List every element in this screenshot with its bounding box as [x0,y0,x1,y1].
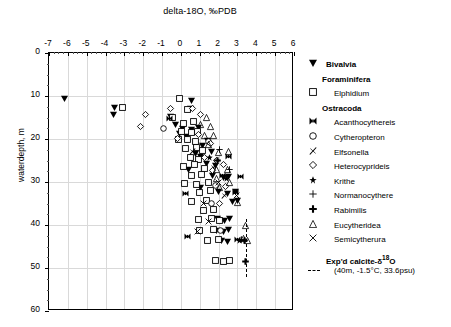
legend-item[interactable]: Rabimilis [300,204,450,219]
legend-item[interactable]: Semicytherura [300,233,450,248]
x-tick-label: 4 [245,38,265,48]
y-tick-label: 60 [18,304,40,314]
data-point [172,121,179,128]
data-point [226,257,233,264]
x-axis-tick [200,52,201,56]
x-axis-tick [87,52,88,56]
data-point [207,123,214,130]
x-tick-label: -7 [38,38,58,48]
x-axis-minor-tick [223,52,224,54]
y-axis-tick [45,225,49,226]
data-point [205,141,212,148]
x-tick-label: 0 [170,38,190,48]
legend-item[interactable]: Krithe [300,175,450,190]
legend-item-label: Bivalvia [326,60,356,69]
legend-item-label: Krithe [334,177,355,186]
legend-group-label: Ostracoda [322,104,362,113]
x-axis-tick [106,52,107,56]
data-point [226,215,233,222]
x-axis-minor-tick [247,52,248,54]
x-axis-minor-tick [289,52,290,54]
y-axis-tick [45,182,49,183]
legend-item-label: Eucytheridea [334,221,381,230]
data-point [193,181,200,188]
legend-item[interactable]: Cytheropteron [300,131,450,146]
y-axis-minor-tick [47,150,49,151]
square-open-icon [308,88,318,98]
data-point [217,227,224,234]
diamond-open-icon [308,161,318,171]
y-axis-minor-tick [47,236,49,237]
legend-item[interactable]: Heterocyprideis [300,160,450,175]
x-axis-tick [143,52,144,56]
x-tick-label: 1 [189,38,209,48]
x-axis-minor-tick [129,52,130,54]
x-tick-label: -5 [76,38,96,48]
legend-item[interactable]: Elphidium [300,87,450,102]
x-tick-label: 3 [226,38,246,48]
horizontal-gridline [49,139,292,140]
y-axis-tick [45,96,49,97]
x-axis-minor-tick [153,52,154,54]
data-point [190,118,197,125]
legend-item[interactable]: Acanthocythereis [300,116,450,131]
x-axis-minor-tick [167,52,168,54]
horizontal-gridline [49,96,292,97]
data-point [215,179,222,186]
legend-item-label: Heterocyprideis [334,162,390,171]
data-point [215,149,222,156]
y-tick-label: 50 [18,261,40,271]
data-point [166,115,173,122]
y-axis-minor-tick [47,75,49,76]
data-point [203,114,210,121]
legend-item[interactable]: Eucytheridea [300,219,450,234]
x-axis-tick [294,52,295,56]
data-point [198,171,205,178]
legend-item[interactable]: Elfsonella [300,146,450,161]
legend-group-label: Foraminifera [322,75,370,84]
y-axis-minor-tick [47,204,49,205]
plus-bold-icon [308,205,318,215]
expected-calcite-line [246,219,247,277]
horizontal-gridline [49,182,292,183]
y-axis-minor-tick [47,300,49,301]
x-axis-minor-tick [77,52,78,54]
x-tick-label: 5 [264,38,284,48]
y-tick-label: 0 [18,46,40,56]
x-axis-minor-tick [172,52,173,54]
data-point [194,228,201,235]
vertical-gridline [124,53,125,309]
legend-item[interactable]: Bivalvia [300,58,450,73]
legend-item[interactable]: Normanocythere [300,189,450,204]
y-axis-tick [45,311,49,312]
data-point [195,216,202,223]
bowtie-filled-icon [308,117,318,127]
data-point [205,218,212,225]
y-axis-minor-tick [47,64,49,65]
data-point [189,105,196,112]
legend-item-label: Elfsonella [334,148,369,157]
x-axis-tick [219,52,220,56]
x-axis-minor-tick [176,52,177,54]
expected-calcite-label: Exp'd calcite-δ18O [326,254,396,266]
data-point [213,166,220,173]
vertical-gridline [143,53,144,309]
y-tick-label: 40 [18,218,40,228]
x-axis-minor-tick [280,52,281,54]
x-axis-minor-tick [204,52,205,54]
x-tick-label: 2 [208,38,228,48]
data-point [174,135,181,142]
slash-icon [308,147,318,157]
y-axis-tick [45,268,49,269]
x-axis-minor-tick [91,52,92,54]
legend-item-label: Semicytherura [334,235,386,244]
legend-group-header: Foraminifera [300,73,450,88]
x-axis-minor-tick [63,52,64,54]
data-point [210,132,217,139]
data-point [184,136,191,143]
data-point [206,154,213,161]
x-axis-minor-tick [54,52,55,54]
data-point [216,200,223,207]
data-point [233,192,240,199]
y-axis-minor-tick [47,279,49,280]
